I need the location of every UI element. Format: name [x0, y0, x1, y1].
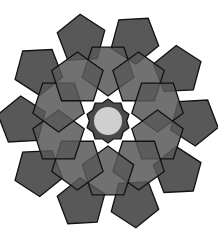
pentagon-rosette-diagram [0, 0, 218, 232]
center-hub [94, 107, 122, 135]
rosette-svg [0, 0, 218, 232]
